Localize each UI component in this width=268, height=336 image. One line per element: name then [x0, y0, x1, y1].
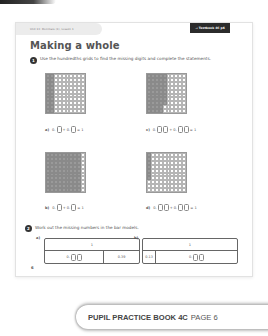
statement-text: + 0. — [63, 128, 71, 132]
statement-a: a)0.+ 0.= 1 — [45, 126, 84, 133]
hundredths-grid-d — [146, 152, 187, 193]
answer-box[interactable] — [157, 126, 162, 133]
statement-text: 0. — [153, 128, 156, 132]
statement-text: 0. — [52, 206, 55, 210]
question-1-instruction: Use the hundredths grids to find the mis… — [40, 56, 240, 62]
bar-b-label: b) — [134, 236, 140, 240]
statement-d: d)0.+ 0.= 1 — [146, 204, 197, 211]
bar-a-left-part: 0. — [45, 251, 103, 263]
answer-box[interactable] — [71, 126, 76, 133]
part-label: b) — [45, 206, 49, 210]
answer-box[interactable] — [164, 204, 169, 211]
answer-box[interactable] — [184, 126, 189, 133]
bar-a-right-part: 0.39 — [103, 251, 139, 263]
hundredths-grid-c — [146, 73, 187, 114]
bar-b-right-part: 0. — [155, 251, 237, 263]
bar-b-whole: 1 — [143, 239, 237, 251]
answer-box[interactable] — [178, 126, 183, 133]
question-2-instruction: Work out the missing numbers in the bar … — [35, 225, 235, 231]
statement-c: c)0.+ 0.= 1 — [146, 126, 196, 133]
part-label: c) — [146, 128, 150, 132]
statement-text: + 0. — [63, 206, 71, 210]
part-label: d) — [146, 206, 150, 210]
statement-text: = 1 — [190, 206, 196, 210]
answer-box[interactable] — [57, 204, 62, 211]
answer-box[interactable] — [57, 126, 62, 133]
statement-b: b)0.+ 0.= 1 — [45, 204, 84, 211]
statement-text: 0. — [52, 128, 55, 132]
hundredths-grid-b — [45, 152, 86, 193]
answer-box[interactable] — [77, 254, 82, 261]
bar-a-whole: 1 — [45, 239, 139, 251]
question-2-number: 2 — [25, 225, 32, 232]
page-title: Making a whole — [30, 40, 120, 51]
grid-cell — [81, 188, 85, 192]
question-1-number: 1 — [30, 57, 37, 64]
answer-box[interactable] — [163, 126, 168, 133]
bar-a-label: a) — [36, 236, 42, 240]
top-strip — [0, 0, 56, 4]
part-label: a) — [45, 128, 49, 132]
statement-text: 0. — [153, 206, 156, 210]
statement-text: + 0. — [169, 128, 177, 132]
bar-b-left-part: 0.13 — [143, 251, 155, 263]
bar-model-a: 1 0. 0.39 — [44, 238, 140, 264]
banner-book-title: PUPIL PRACTICE BOOK 4C — [88, 313, 188, 322]
statement-text: + 0. — [170, 206, 178, 210]
statement-text: = 1 — [190, 128, 196, 132]
answer-box[interactable] — [199, 254, 204, 261]
answer-box[interactable] — [184, 204, 189, 211]
bar-model-b: 1 0.13 0. — [142, 238, 238, 264]
book-page-banner: PUPIL PRACTICE BOOK 4C PAGE 6 — [76, 305, 268, 329]
page-number: 6 — [31, 265, 34, 270]
grid-cell — [182, 109, 186, 113]
answer-box[interactable] — [158, 204, 163, 211]
banner-page-label: PAGE 6 — [191, 313, 218, 322]
unit-tab: Unit 13: Decimals (1), Lesson 1 — [16, 23, 102, 35]
answer-box[interactable] — [71, 254, 76, 261]
answer-box[interactable] — [193, 254, 198, 261]
unit-label: Unit 13: Decimals (1), Lesson 1 — [30, 28, 74, 31]
worksheet-page: Unit 13: Decimals (1), Lesson 1 → Textbo… — [15, 22, 253, 277]
statement-text: = 1 — [77, 206, 83, 210]
answer-box[interactable] — [71, 204, 76, 211]
answer-box[interactable] — [178, 204, 183, 211]
textbook-reference-badge: → Textbook 4C p6 — [190, 23, 230, 33]
hundredths-grid-a — [45, 73, 86, 114]
grid-cell — [182, 188, 186, 192]
grid-cell — [81, 109, 85, 113]
statement-text: = 1 — [77, 128, 83, 132]
